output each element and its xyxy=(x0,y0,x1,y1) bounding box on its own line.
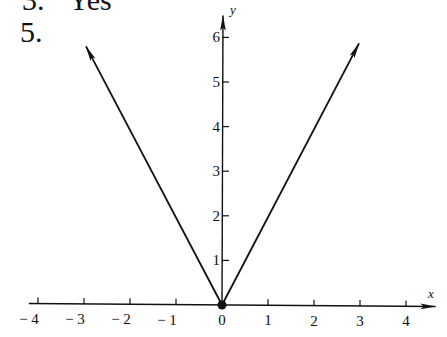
origin-point xyxy=(218,301,227,310)
graph: xy− 4− 3− 2− 101234123456 xyxy=(0,0,447,337)
x-tick-label: − 1 xyxy=(157,312,177,328)
y-axis xyxy=(222,16,223,305)
x-tick-label: 4 xyxy=(402,313,410,329)
x-tick-label: 0 xyxy=(218,312,226,328)
y-tick-label: 4 xyxy=(213,119,221,135)
x-tick-label: − 4 xyxy=(19,311,39,327)
y-tick-label: 5 xyxy=(213,74,221,90)
x-tick-label: 3 xyxy=(356,313,364,329)
axes: xy− 4− 3− 2− 101234123456 xyxy=(19,2,435,329)
right-branch-line xyxy=(222,43,359,305)
y-axis-label: y xyxy=(228,2,236,17)
y-tick-label: 6 xyxy=(213,29,221,45)
x-tick-label: 1 xyxy=(264,312,272,328)
x-tick-label: 2 xyxy=(310,313,318,329)
y-tick-label: 2 xyxy=(213,208,221,224)
x-tick-label: − 2 xyxy=(111,311,131,327)
y-tick-label: 3 xyxy=(213,163,221,179)
y-tick-label: 1 xyxy=(213,252,221,268)
x-tick-label: − 3 xyxy=(65,311,85,327)
x-axis-label: x xyxy=(427,286,434,301)
left-branch-line xyxy=(86,46,222,305)
x-axis xyxy=(29,304,436,307)
